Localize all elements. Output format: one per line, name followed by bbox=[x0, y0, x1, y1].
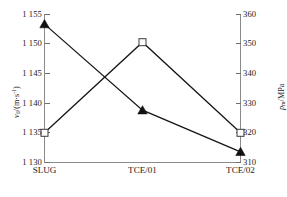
left-tick-label-1155: 1 155 bbox=[4, 10, 42, 19]
x-category-label-tce01: TCE/01 bbox=[113, 165, 173, 175]
right-tick-label-350: 350 bbox=[243, 39, 269, 48]
left-axis-symbol: v bbox=[12, 114, 21, 118]
left-tick-label-1145: 1 145 bbox=[4, 69, 42, 78]
right-axis-subscript: m bbox=[280, 101, 286, 106]
right-tick-label-330: 330 bbox=[243, 99, 269, 108]
left-tick-label-1135: 1 135 bbox=[4, 128, 42, 137]
figure-caption bbox=[0, 187, 287, 197]
data-point-pressure-tce01 bbox=[139, 39, 146, 46]
x-category-label-slug: SLUG bbox=[15, 165, 75, 175]
left-axis-subscript: tl bbox=[15, 111, 21, 114]
left-tick-label-1140: 1 140 bbox=[4, 99, 42, 108]
right-axis-unit: /MPa bbox=[277, 84, 286, 102]
right-tick-label-340: 340 bbox=[243, 69, 269, 78]
left-axis-unit-exponent: -1 bbox=[11, 89, 17, 94]
data-point-velocity-tce02 bbox=[236, 147, 245, 155]
right-axis-ticks bbox=[236, 14, 241, 163]
left-tick-label-1150: 1 150 bbox=[4, 39, 42, 48]
x-category-label-tce02: TCE/02 bbox=[211, 165, 271, 175]
left-axis-title: vtl/(m·s-1) bbox=[12, 86, 22, 118]
right-tick-label-320: 320 bbox=[243, 128, 269, 137]
right-tick-label-360: 360 bbox=[243, 10, 269, 19]
data-point-pressure-slug bbox=[41, 129, 48, 136]
series-line-pressure bbox=[45, 42, 241, 133]
chart-figure: 1 155 1 150 1 145 1 140 1 135 1 130 360 … bbox=[0, 0, 287, 197]
left-axis-ticks bbox=[45, 14, 50, 163]
left-axis-unit: /(m·s bbox=[12, 94, 21, 111]
right-axis-title: pm/MPa bbox=[277, 84, 287, 110]
right-axis-symbol: p bbox=[277, 106, 286, 110]
data-point-velocity-slug bbox=[40, 20, 49, 28]
series-markers-pressure bbox=[41, 39, 244, 137]
